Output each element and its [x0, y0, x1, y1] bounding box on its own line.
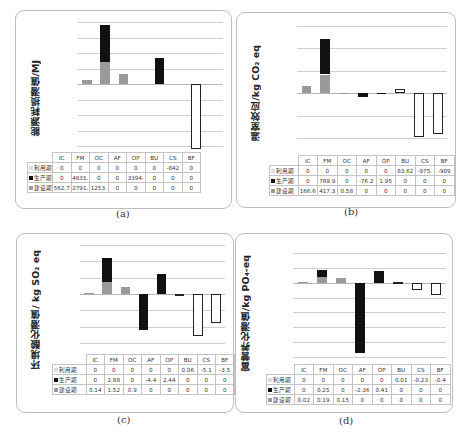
gridline: [293, 298, 446, 299]
table-cell: 0: [294, 375, 314, 385]
zero-line: [297, 93, 447, 94]
legend-swatch-icon: [271, 189, 275, 193]
table-header-bu: BU: [179, 355, 198, 365]
legend-use: 利用期: [270, 166, 299, 176]
legend-prod: 生产期: [28, 173, 53, 183]
table-header-op: OP: [376, 156, 396, 166]
table-cell: -0.4: [431, 375, 451, 385]
zero-line: [78, 84, 223, 85]
table-cell: -4.4: [142, 375, 161, 385]
table-cell: -5.1: [197, 365, 216, 375]
bar-af-prod: [139, 294, 148, 330]
y-axis-label-d: 富营养化潜值/kg PO₄-eq: [239, 255, 253, 371]
data-table-c: ICFMOCAFOPBUCSBF利用期000000.06-5.1-3.5生产期0…: [52, 354, 235, 395]
bar-op-prod: [377, 93, 387, 94]
y-axis-label-b: 温室效应/kg CO₂ eq: [249, 45, 263, 141]
bar-cs-use: [412, 283, 422, 290]
table-header-op: OP: [160, 355, 179, 365]
table-header-fm: FM: [71, 153, 90, 163]
bar-bf-use: [211, 294, 220, 323]
table-cell: 0: [86, 375, 105, 385]
table-cell: 0: [182, 173, 201, 183]
plot-area-b: [297, 26, 447, 138]
gridline: [78, 131, 223, 132]
table-cell: 166.6: [298, 186, 318, 196]
y-axis-label-a: 能源耗损潜值/MJ: [29, 60, 43, 136]
table-header-fm: FM: [105, 355, 124, 365]
legend-cons: 建设期: [267, 395, 295, 405]
table-cell: 0: [314, 375, 334, 385]
table-cell: 0: [435, 176, 455, 186]
table-cell: 0: [415, 176, 435, 186]
table-cell: 0: [372, 375, 392, 385]
table-cell: 417.3: [318, 186, 338, 196]
legend-swatch-icon: [29, 176, 33, 180]
table-row-prod: 生产期00.250-2.360.41000: [267, 385, 451, 395]
bar-bu-use: [395, 89, 405, 93]
table-cell: 0: [90, 163, 109, 173]
table-cell: 0.58: [337, 186, 357, 196]
legend-cons: 建设期: [270, 186, 299, 196]
legend-cons: 建设期: [53, 385, 87, 395]
bar-oc-cons: [339, 93, 349, 94]
table-row-cons: 建设期166.6417.30.5800000: [270, 186, 455, 196]
bar-ic-cons: [84, 293, 93, 294]
table-header-ic: IC: [86, 355, 105, 365]
table-cell: 0: [411, 385, 431, 395]
data-table-a: ICFMOCAFOPBUCSBF利用期000000-8420生产期04831.0…: [27, 152, 201, 193]
table-cell: -909: [435, 166, 455, 176]
bar-op-prod: [155, 58, 164, 84]
table-cell: 0: [145, 173, 164, 183]
table-cell: 0.01: [392, 375, 412, 385]
legend-swatch-icon: [29, 166, 33, 170]
bar-cs-use: [414, 93, 424, 137]
gridline: [78, 146, 223, 147]
gridline: [80, 310, 225, 311]
table-cell: 0.41: [372, 385, 392, 395]
gridline: [293, 327, 446, 328]
table-cell: 0: [142, 385, 161, 395]
table-cell: 0: [353, 375, 373, 385]
table-header-bf: BF: [182, 153, 201, 163]
table-cell: 2.44: [160, 375, 179, 385]
bar-op-prod: [374, 271, 384, 283]
legend-swatch-icon: [54, 368, 58, 372]
table-row-prod: 生产期04831.003394.000: [28, 173, 201, 183]
table-cell: 0: [392, 395, 412, 405]
caption-d: (d): [339, 415, 353, 426]
table-cell: 2791.: [71, 183, 90, 193]
table-cell: 1.95: [376, 176, 396, 186]
table-cell: 0: [71, 163, 90, 173]
legend-swatch-icon: [271, 179, 275, 183]
table-cell: 1253.: [90, 183, 109, 193]
bar-oc-cons: [336, 278, 346, 282]
table-cell: 0: [435, 186, 455, 196]
table-cell: 0: [127, 183, 146, 193]
plot-area-c: [80, 245, 225, 343]
gridline: [78, 22, 223, 23]
table-header-af: AF: [142, 355, 161, 365]
table-corner: [53, 355, 87, 365]
legend-use: 利用期: [267, 375, 295, 385]
table-cell: 0: [123, 365, 142, 375]
gridline: [297, 26, 447, 27]
bar-cs-use: [193, 294, 202, 336]
legend-use: 利用期: [53, 365, 87, 375]
table-cell: 0: [376, 166, 396, 176]
table-header-ic: IC: [298, 156, 318, 166]
table-cell: 0: [53, 173, 72, 183]
bar-fm-prod: [317, 270, 327, 277]
table-header-oc: OC: [337, 156, 357, 166]
table-cell: 0: [86, 365, 105, 375]
table-cell: -76.2: [357, 176, 377, 186]
table-cell: 0: [357, 166, 377, 176]
table-header-op: OP: [127, 153, 146, 163]
gridline: [78, 115, 223, 116]
table-cell: 0: [164, 183, 183, 193]
table-header-bu: BU: [145, 153, 164, 163]
table-cell: 0: [376, 186, 396, 196]
table-cell: 0: [108, 163, 127, 173]
table-cell: 0: [182, 183, 201, 193]
table-cell: 0: [431, 385, 451, 395]
table-header-bf: BF: [435, 156, 455, 166]
